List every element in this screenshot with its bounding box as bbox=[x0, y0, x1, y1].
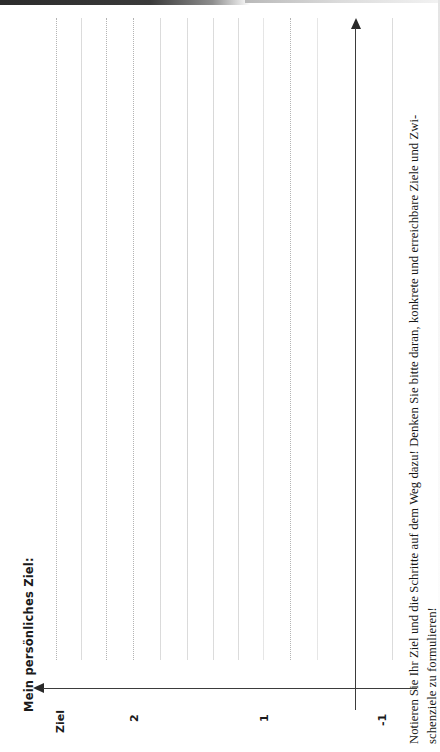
writing-line[interactable] bbox=[213, 18, 214, 660]
writing-line[interactable] bbox=[187, 18, 188, 660]
axis-label-ziel: Ziel bbox=[54, 710, 67, 733]
writing-line[interactable] bbox=[317, 18, 318, 660]
writing-line[interactable] bbox=[56, 18, 58, 660]
axis-label-1: 1 bbox=[258, 714, 271, 722]
instruction-line-1: Notieren Sie Ihr Ziel und die Schritte a… bbox=[407, 115, 422, 744]
arrow-up-icon bbox=[351, 18, 361, 29]
writing-line[interactable] bbox=[106, 18, 108, 660]
scan-edge-shadow-light bbox=[245, 0, 440, 3]
axis-label-minus-1: -1 bbox=[376, 714, 389, 726]
writing-line[interactable] bbox=[160, 18, 161, 660]
instruction-line-2: schenziele zu formulieren! bbox=[425, 607, 440, 744]
axis-label-2: 2 bbox=[128, 714, 141, 722]
writing-line[interactable] bbox=[392, 18, 393, 660]
writing-line[interactable] bbox=[263, 18, 264, 660]
writing-line[interactable] bbox=[133, 18, 135, 660]
scan-edge-shadow bbox=[0, 0, 250, 5]
page-title: Mein persönliches Ziel: bbox=[22, 557, 36, 712]
goal-axis bbox=[355, 28, 356, 710]
worksheet-page: Mein persönliches Ziel: Ziel 2 1 -1 Noti… bbox=[0, 0, 440, 752]
writing-line[interactable] bbox=[238, 18, 239, 660]
writing-line[interactable] bbox=[81, 18, 82, 660]
time-axis bbox=[43, 688, 417, 689]
writing-line[interactable] bbox=[290, 18, 292, 660]
